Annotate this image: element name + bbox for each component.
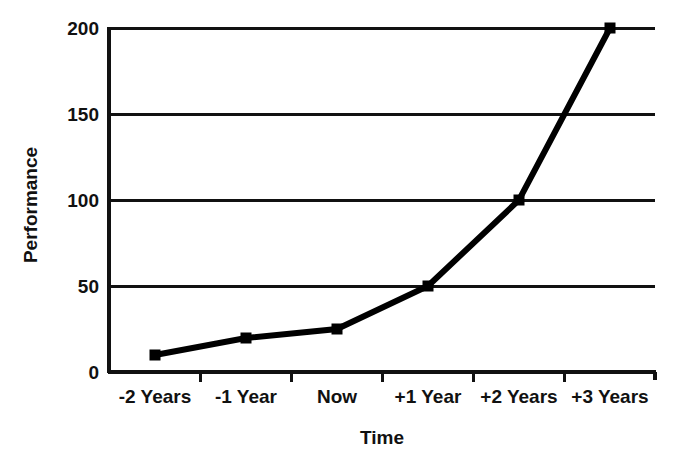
x-tick-label-plus-1-year: +1 Year — [395, 386, 462, 407]
x-tick-label-minus-1-year: -1 Year — [215, 386, 278, 407]
y-tick-label-100: 100 — [67, 190, 99, 211]
data-point-plus-1-year — [423, 281, 433, 291]
y-tick-label-0: 0 — [88, 362, 99, 383]
y-tick-label-50: 50 — [78, 276, 99, 297]
data-point-minus-1-year — [241, 333, 251, 343]
x-tick-label-minus-2-years: -2 Years — [119, 386, 192, 407]
performance-line-chart: 200 150 100 50 0 -2 Years -1 Year Now +1… — [0, 0, 685, 462]
data-point-minus-2-years — [150, 350, 160, 360]
y-axis-title: Performance — [20, 147, 41, 263]
chart-container: 200 150 100 50 0 -2 Years -1 Year Now +1… — [0, 0, 685, 462]
y-tick-label-200: 200 — [67, 18, 99, 39]
data-point-plus-3-years — [605, 23, 615, 33]
y-tick-label-150: 150 — [67, 104, 99, 125]
x-tick-label-plus-2-years: +2 Years — [480, 386, 557, 407]
x-tick-label-now: Now — [317, 386, 357, 407]
x-tick-label-plus-3-years: +3 Years — [571, 386, 648, 407]
data-point-plus-2-years — [514, 195, 524, 205]
x-axis-title: Time — [360, 427, 404, 448]
data-point-now — [332, 324, 342, 334]
